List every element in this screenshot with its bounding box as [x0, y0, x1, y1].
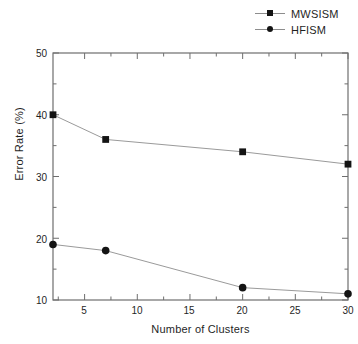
series-mwsism [50, 111, 352, 167]
data-point[interactable] [102, 247, 110, 255]
plot-area [0, 0, 358, 344]
data-series-group [49, 111, 352, 297]
axis-ticks [53, 53, 348, 300]
axis-frame [53, 53, 348, 300]
series-hfism [49, 241, 352, 298]
data-point[interactable] [239, 284, 247, 292]
chart-figure: MWSISM HFISM Error Rate (%) Number of Cl… [0, 0, 358, 344]
data-point[interactable] [239, 148, 246, 155]
data-point[interactable] [344, 290, 352, 298]
data-point[interactable] [50, 111, 57, 118]
data-point[interactable] [102, 136, 109, 143]
data-point[interactable] [49, 241, 57, 249]
data-point[interactable] [345, 161, 352, 168]
